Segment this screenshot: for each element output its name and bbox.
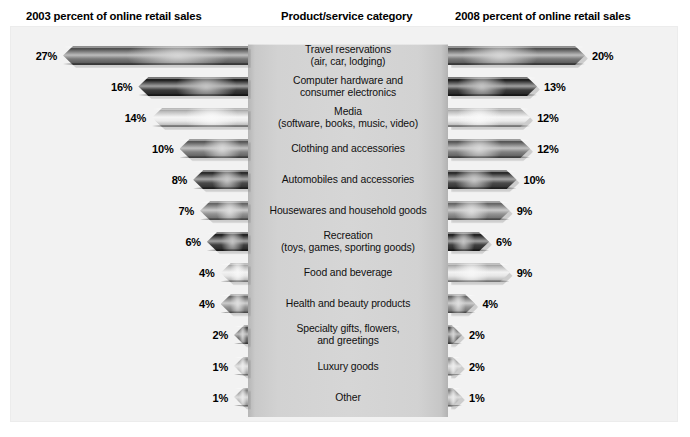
left-bar [234,325,248,344]
left-value-label: 7% [154,205,194,217]
left-bar-fill [63,46,248,65]
right-bar [448,170,517,189]
category-label: Housewares and household goods [248,205,448,217]
category-label-line1: Specialty gifts, flowers, [296,323,399,334]
left-value-label: 1% [188,361,228,373]
left-value-label: 1% [188,392,228,404]
right-bar-fill [448,77,537,96]
category-label: Clothing and accessories [248,143,448,155]
right-bar-fill [448,232,489,251]
left-bar [234,357,248,376]
category-label: Recreation(toys, games, sporting goods) [248,230,448,253]
category-label-line1: Recreation [323,230,372,241]
left-value-label: 10% [134,143,174,155]
left-bar-fill [221,263,248,282]
left-value-label: 4% [175,298,215,310]
right-bar [448,46,585,65]
left-bar [180,139,249,158]
left-bar-fill [234,357,248,376]
right-bar-fill [448,294,475,313]
left-bar-fill [138,77,248,96]
category-label-line2: (air, car, lodging) [248,56,448,68]
left-bar [152,108,248,127]
category-label: Media(software, books, music, video) [248,106,448,129]
column-headers: 2003 percent of online retail sales Prod… [0,10,690,34]
right-value-label: 4% [482,298,526,310]
right-value-label: 13% [544,81,588,93]
category-label-line2: and greetings [248,335,448,347]
category-label-line1: Health and beauty products [286,298,410,309]
right-bar [448,201,510,220]
right-bar-fill [448,357,462,376]
category-label: Health and beauty products [248,298,448,310]
header-left-column: 2003 percent of online retail sales [26,10,202,22]
left-value-label: 14% [106,112,146,124]
category-label-line2: (toys, games, sporting goods) [248,242,448,254]
right-bar-fill [448,46,585,65]
left-bar-fill [234,388,248,407]
right-bar [448,108,530,127]
left-bar-fill [234,325,248,344]
left-value-label: 27% [17,50,57,62]
category-label-line1: Food and beverage [304,267,392,278]
right-value-label: 12% [537,143,581,155]
category-label: Travel reservations(air, car, lodging) [248,44,448,67]
right-bar [448,357,462,376]
left-bar-fill [180,139,249,158]
right-bar [448,77,537,96]
right-bar [448,388,462,407]
left-value-label: 2% [188,329,228,341]
right-bar-fill [448,139,530,158]
category-label-line1: Automobiles and accessories [282,174,414,185]
left-bar [234,388,248,407]
right-value-label: 1% [469,392,513,404]
category-label-line2: consumer electronics [248,87,448,99]
left-bar [138,77,248,96]
left-bar [221,294,248,313]
left-bar [193,170,248,189]
category-label-line1: Travel reservations [305,44,391,55]
left-bar-fill [221,294,248,313]
right-value-label: 20% [592,50,636,62]
category-label-line1: Luxury goods [317,361,378,372]
right-bar-fill [448,201,510,220]
category-label: Food and beverage [248,267,448,279]
category-label: Luxury goods [248,361,448,373]
left-value-label: 16% [92,81,132,93]
category-label-line1: Housewares and household goods [269,205,426,216]
header-right-column: 2008 percent of online retail sales [455,10,631,22]
right-value-label: 10% [524,174,568,186]
right-value-label: 12% [537,112,581,124]
right-bar [448,325,462,344]
left-bar [63,46,248,65]
left-bar-fill [152,108,248,127]
right-bar [448,263,510,282]
right-bar [448,294,475,313]
category-label: Computer hardware andconsumer electronic… [248,75,448,98]
left-bar [207,232,248,251]
left-bar-fill [193,170,248,189]
category-label: Other [248,392,448,404]
header-center-column: Product/service category [281,10,412,22]
right-bar [448,232,489,251]
category-label-line1: Computer hardware and [293,75,403,86]
right-bar-fill [448,325,462,344]
right-value-label: 6% [496,236,540,248]
category-label-line1: Media [334,106,362,117]
left-value-label: 8% [147,174,187,186]
right-bar-fill [448,263,510,282]
right-bar-fill [448,388,462,407]
category-label-line2: (software, books, music, video) [248,118,448,130]
right-value-label: 9% [517,205,561,217]
left-value-label: 4% [175,267,215,279]
category-label: Automobiles and accessories [248,174,448,186]
left-bar-fill [207,232,248,251]
left-value-label: 6% [161,236,201,248]
category-label-line1: Clothing and accessories [291,143,405,154]
category-label-line1: Other [335,392,361,403]
category-label: Specialty gifts, flowers,and greetings [248,323,448,346]
right-value-label: 2% [469,361,513,373]
right-bar-fill [448,170,517,189]
dual-arrow-comparison-chart: 2003 percent of online retail sales Prod… [0,0,690,437]
right-bar [448,139,530,158]
